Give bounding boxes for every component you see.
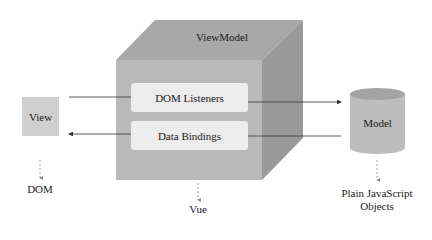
dom-listeners-box: DOM Listeners: [131, 83, 248, 112]
data-bindings-box: Data Bindings: [131, 121, 248, 150]
view-label: View: [29, 111, 52, 123]
plain-js-label-line1: Plain JavaScript: [327, 187, 427, 200]
cube-front-face: [116, 60, 262, 180]
plain-js-label-line2: Objects: [327, 200, 427, 213]
viewmodel-title: ViewModel: [177, 31, 267, 44]
view-box: View: [22, 97, 59, 136]
model-label: Model: [350, 117, 405, 130]
dom-listeners-label: DOM Listeners: [155, 92, 224, 104]
dom-label: DOM: [10, 183, 70, 196]
vue-label: Vue: [168, 203, 228, 216]
data-bindings-label: Data Bindings: [158, 130, 221, 142]
